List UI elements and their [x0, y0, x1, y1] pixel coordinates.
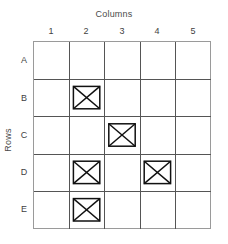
grid-cell-a5[interactable]	[175, 42, 210, 79]
grid-cell-e1[interactable]	[34, 191, 69, 228]
grid-cell-b4[interactable]	[140, 79, 175, 116]
grid-cell-a1[interactable]	[34, 42, 69, 79]
grid-cell-b3[interactable]	[104, 79, 139, 116]
grid-cell-c2[interactable]	[69, 116, 104, 153]
grid-cell-c1[interactable]	[34, 116, 69, 153]
grid-cell-c4[interactable]	[140, 116, 175, 153]
grid-cell-d4[interactable]	[140, 154, 175, 191]
grid-cell-e4[interactable]	[140, 191, 175, 228]
grid-cell-d2[interactable]	[69, 154, 104, 191]
grid-cell-b1[interactable]	[34, 79, 69, 116]
grid-cell-a3[interactable]	[104, 42, 139, 79]
grid-cell-e3[interactable]	[104, 191, 139, 228]
grid-cell-c5[interactable]	[175, 116, 210, 153]
grid-figure: Columns Rows 1 2 3 4 5 A B C D E	[0, 0, 228, 244]
grid-cell-b5[interactable]	[175, 79, 210, 116]
grid-cell-a4[interactable]	[140, 42, 175, 79]
grid-cell-e5[interactable]	[175, 191, 210, 228]
grid-cell-b2[interactable]	[69, 79, 104, 116]
grid-cell-d5[interactable]	[175, 154, 210, 191]
grid-cell-e2[interactable]	[69, 191, 104, 228]
grid-cell-c3[interactable]	[104, 116, 139, 153]
grid-cell-d1[interactable]	[34, 154, 69, 191]
grid-cell-d3[interactable]	[104, 154, 139, 191]
grid-cell-a2[interactable]	[69, 42, 104, 79]
